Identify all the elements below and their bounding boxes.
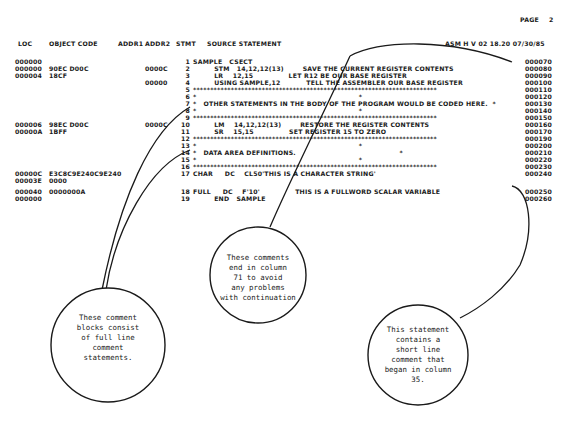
callout-line: any problems (210, 283, 306, 293)
callout-line: 35. (368, 375, 468, 385)
callout-column71: These comments end in column 71 to avoid… (210, 253, 306, 303)
callout-line: comment that (368, 355, 468, 365)
callout-comment-blocks: These comment blocks consist of full lin… (58, 313, 158, 363)
callout-line: These comments (210, 253, 306, 263)
callout-line: of full line (58, 333, 158, 343)
callout-short-comment: This statement contains a short line com… (368, 325, 468, 385)
assembler-listing-page: PAGE2 LOC OBJECT CODE ADDR1 ADDR2 STMT S… (0, 0, 579, 425)
callout-line: began in column (368, 365, 468, 375)
callout-line: comment (58, 343, 158, 353)
callout-line: This statement (368, 325, 468, 335)
callout-line: These comment (58, 313, 158, 323)
callout-line: blocks consist (58, 323, 158, 333)
callout-line: 71 to avoid (210, 273, 306, 283)
callout-line: short line (368, 345, 468, 355)
callout-line: with continuation (210, 293, 306, 303)
callout-line: contains a (368, 335, 468, 345)
callout-line: statements. (58, 353, 158, 363)
callout-line: end in column (210, 263, 306, 273)
